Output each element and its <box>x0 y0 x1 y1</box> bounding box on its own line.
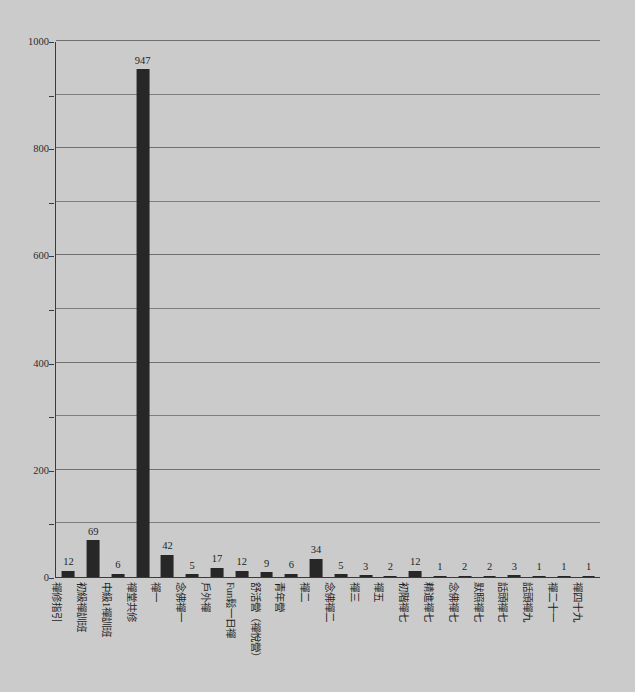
y-axis-tick-mark <box>49 417 54 418</box>
bar-group: 42 <box>155 42 180 577</box>
y-axis-tick-mark <box>49 96 54 97</box>
bar <box>211 568 224 577</box>
bar <box>161 555 174 578</box>
bar-group: 12 <box>56 42 81 577</box>
bar-value-label: 2 <box>462 562 467 573</box>
x-axis-tick-label-text: 禪二十一 <box>546 582 557 622</box>
x-axis-tick-label-text: 念佛禪二 <box>323 582 334 622</box>
y-axis-tick-label: 800 <box>0 144 49 155</box>
x-axis-tick-label-text: 念佛禪七 <box>447 582 458 622</box>
bar-value-label: 2 <box>388 562 393 573</box>
y-axis-tick-mark <box>49 310 54 311</box>
bar-value-label: 17 <box>212 554 223 565</box>
bar-group: 17 <box>205 42 230 577</box>
y-axis-tick-label: 0 <box>0 573 49 584</box>
x-axis-tick-label-text: 禪五 <box>373 582 384 602</box>
bar-value-label: 34 <box>311 545 322 556</box>
plot-area: 1269694742517129634532121223111 <box>55 42 600 578</box>
x-axis-tick-label-text: 禪三 <box>348 582 359 602</box>
x-axis-tick-label: 禪四十九 <box>575 582 600 686</box>
x-axis-tick-label-text: 話頭禪七 <box>497 582 508 622</box>
bar <box>508 575 521 577</box>
x-axis-tick-label-text: Fun鬆一日禪 <box>224 582 235 638</box>
bar <box>434 576 447 578</box>
x-axis-tick-label-text: 中級1禪訓班 <box>100 582 111 637</box>
x-axis-tick-label-text: 念佛禪一 <box>175 582 186 622</box>
y-axis-tick-label: 600 <box>0 251 49 262</box>
bar-group: 34 <box>304 42 329 577</box>
bar-group: 9 <box>254 42 279 577</box>
y-axis-tick-label: 1000 <box>0 37 49 48</box>
y-axis-tick-label: 200 <box>0 466 49 477</box>
bar-value-label: 3 <box>512 562 517 573</box>
x-axis-tick-label-text: 禪一 <box>150 582 161 602</box>
x-axis-tick-label-text: 默照禪七 <box>472 582 483 622</box>
x-axis-tick-label-text: 禪修指引 <box>51 582 62 622</box>
bar-value-label: 12 <box>237 557 248 568</box>
bar <box>483 576 496 578</box>
bar-value-label: 6 <box>289 560 294 571</box>
bar-chart-figure: 02004006008001000 1269694742517129634532… <box>0 0 635 692</box>
bar-group: 2 <box>378 42 403 577</box>
bar-group: 12 <box>229 42 254 577</box>
x-axis-tick-label-text: 初級禪訓班 <box>76 582 87 632</box>
x-axis-tick-label-text: 精進禪七 <box>422 582 433 622</box>
clipped-header-text <box>18 0 178 8</box>
bar-group: 5 <box>180 42 205 577</box>
bar <box>62 571 75 577</box>
bar-group: 1 <box>551 42 576 577</box>
x-axis-tick-label-text: 禪二 <box>299 582 310 602</box>
bar-group: 1 <box>576 42 601 577</box>
bar <box>334 574 347 577</box>
y-axis-tick-mark <box>49 203 54 204</box>
bar <box>409 571 422 577</box>
x-axis-tick-label-text: 青年營 <box>274 582 285 612</box>
bar <box>310 559 323 577</box>
y-axis-tick-mark <box>49 471 54 472</box>
y-axis-tick-label: 400 <box>0 359 49 370</box>
bar <box>384 576 397 578</box>
bar <box>533 576 546 578</box>
bar <box>111 574 124 577</box>
x-axis-category-labels: 禪修指引初級禪訓班中級1禪訓班禪堂共修禪一念佛禪一戶外禪Fun鬆一日禪舒活營（禪… <box>55 582 600 686</box>
x-axis-tick-label-text: 禪堂共修 <box>125 582 136 622</box>
bar <box>557 576 570 578</box>
bar-value-label: 5 <box>338 561 343 572</box>
bar-value-label: 2 <box>487 562 492 573</box>
bar-group: 3 <box>353 42 378 577</box>
bar <box>136 69 149 577</box>
bar <box>285 574 298 577</box>
bar <box>582 576 595 578</box>
bar-group: 69 <box>81 42 106 577</box>
y-axis-tick-mark <box>49 578 54 579</box>
x-axis-tick-label-text: 初階禪七 <box>398 582 409 622</box>
bar <box>235 571 248 577</box>
x-axis-tick-label-text: 戶外禪 <box>200 582 211 612</box>
x-axis-tick-label-text: 禪四十九 <box>571 582 582 622</box>
bar-value-label: 1 <box>586 562 591 573</box>
bar-group: 6 <box>279 42 304 577</box>
bar-value-label: 12 <box>410 557 421 568</box>
bar-value-label: 12 <box>63 557 74 568</box>
bar-value-label: 9 <box>264 559 269 570</box>
y-axis-tick-mark <box>49 364 54 365</box>
y-axis-tick-mark <box>49 524 54 525</box>
bar-value-label: 69 <box>88 527 99 538</box>
bar-value-label: 3 <box>363 562 368 573</box>
bar-group: 2 <box>477 42 502 577</box>
bar-group: 12 <box>403 42 428 577</box>
bar-value-label: 1 <box>536 562 541 573</box>
bar-group: 3 <box>502 42 527 577</box>
bar-value-label: 1 <box>561 562 566 573</box>
bar <box>186 574 199 577</box>
y-axis-tick-mark <box>49 149 54 150</box>
y-axis-tick-mark <box>49 256 54 257</box>
bar-value-label: 1 <box>437 562 442 573</box>
bar-group: 5 <box>329 42 354 577</box>
bar <box>260 572 273 577</box>
x-axis-tick-label-text: 舒活營（禪悅營） <box>249 582 260 662</box>
x-axis-tick-label-text: 話頭禪九 <box>522 582 533 622</box>
bar-group: 6 <box>106 42 131 577</box>
bar-group: 947 <box>130 42 155 577</box>
bar-value-label: 42 <box>162 541 173 552</box>
